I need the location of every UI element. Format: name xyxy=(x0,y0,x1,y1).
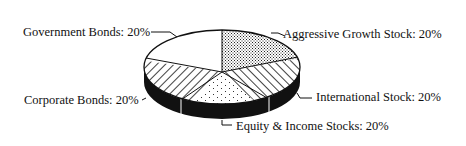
label-international: International Stock: 20% xyxy=(316,90,441,104)
label-aggressive-growth: Aggressive Growth Stock: 20% xyxy=(283,27,442,41)
pie-chart: Government Bonds: 20% Aggressive Growth … xyxy=(0,0,466,146)
label-government-bonds: Government Bonds: 20% xyxy=(23,25,150,39)
label-equity-income: Equity & Income Stocks: 20% xyxy=(236,119,389,133)
label-corporate-bonds: Corporate Bonds: 20% xyxy=(24,93,139,107)
